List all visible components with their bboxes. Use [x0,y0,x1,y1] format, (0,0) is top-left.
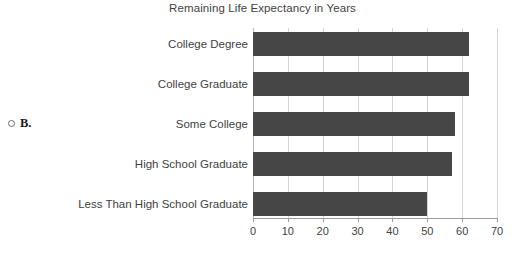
category-label: Less Than High School Graduate [78,192,248,216]
x-tick [427,218,428,222]
category-label: High School Graduate [135,152,248,176]
gridline [497,28,498,218]
category-label: Some College [176,112,248,136]
gridline [462,28,463,218]
x-tick [323,218,324,222]
plot-area [253,28,497,218]
bar [253,32,469,56]
x-tick [462,218,463,222]
x-tick [253,218,254,222]
x-tick-label: 10 [282,225,294,237]
bar [253,72,469,96]
x-tick-label: 60 [456,225,468,237]
bar [253,152,452,176]
x-tick [358,218,359,222]
category-label: College Degree [168,32,248,56]
chart-screenshot: B. Remaining Life Expectancy in Years Co… [0,0,525,258]
bar [253,192,427,216]
bar [253,112,455,136]
x-tick-label: 70 [491,225,503,237]
category-label: College Graduate [158,72,248,96]
x-tick [497,218,498,222]
x-axis-line [253,218,497,219]
chart-title: Remaining Life Expectancy in Years [0,2,525,14]
category-axis-labels: College Degree College Graduate Some Col… [0,28,250,218]
x-tick-label: 40 [386,225,398,237]
chart-plot: College Degree College Graduate Some Col… [0,28,525,218]
x-tick-label: 50 [421,225,433,237]
x-tick [288,218,289,222]
x-tick-label: 20 [317,225,329,237]
x-tick-label: 30 [351,225,363,237]
x-tick [392,218,393,222]
x-tick-label: 0 [250,225,256,237]
